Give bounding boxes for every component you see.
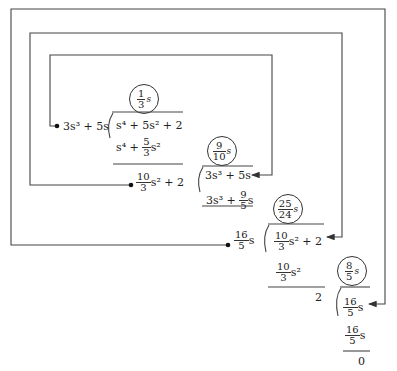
product-4: 165s	[345, 325, 365, 346]
quotient-3-circle: 2524s	[273, 194, 303, 224]
dot-remainder-2	[226, 243, 231, 248]
quotient-2-circle: 910s	[207, 136, 237, 166]
divisor-1: 3s³ + 5s	[63, 121, 109, 132]
dot-divisor-1	[55, 124, 60, 129]
product-1: s⁴ + 53s²	[116, 137, 161, 158]
remainder-1: 103s² + 2	[136, 172, 184, 193]
arrow-loop-3	[50, 55, 272, 175]
dividend-1: s⁴ + 5s² + 2	[116, 120, 183, 131]
quotient-1-circle: 13s	[129, 84, 159, 114]
product-2: 3s³ + 95s	[206, 190, 253, 211]
dividend-2: 3s³ + 5s	[205, 170, 251, 181]
quotient-4-circle: 85s	[337, 256, 367, 286]
dot-remainder-1	[129, 183, 134, 188]
feedback-arrows	[0, 0, 397, 371]
dividend-3: 103s² + 2	[274, 231, 322, 252]
arrow-loop-1	[11, 9, 385, 304]
dividend-4: 165s	[343, 297, 363, 318]
remainder-2: 165s	[234, 230, 254, 251]
remainder-3: 2	[315, 292, 322, 303]
remainder-4: 0	[358, 356, 365, 367]
product-3: 103s²	[276, 262, 301, 283]
